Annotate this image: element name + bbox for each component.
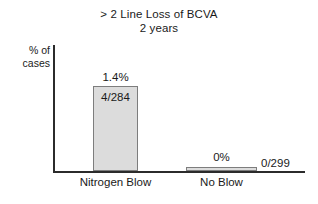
- x-axis-label-no-blow: No Blow: [186, 176, 257, 188]
- x-axis-category-labels: Nitrogen Blow No Blow: [53, 176, 305, 194]
- bar-value-label-nitrogen-blow: 1.4%: [93, 71, 138, 83]
- bar-chart-figure: > 2 Line Loss of BCVA 2 years % of cases…: [0, 0, 318, 204]
- y-axis-label: % of cases: [4, 44, 50, 70]
- x-axis-line: [53, 171, 305, 173]
- plot-area: 4/284 1.4% 0% 0/299: [53, 45, 305, 171]
- bar-no-blow: [186, 167, 257, 171]
- bar-count-label-nitrogen-blow: 4/284: [94, 91, 137, 103]
- bar-count-label-no-blow: 0/299: [261, 157, 290, 169]
- chart-title: > 2 Line Loss of BCVA 2 years: [0, 7, 318, 35]
- y-axis-label-line-2: cases: [4, 57, 50, 70]
- x-axis-label-nitrogen-blow: Nitrogen Blow: [63, 176, 168, 188]
- bar-value-label-no-blow: 0%: [186, 151, 257, 163]
- bar-nitrogen-blow: 4/284: [93, 86, 138, 171]
- chart-title-line-1: > 2 Line Loss of BCVA: [0, 7, 318, 21]
- y-axis-label-line-1: % of: [4, 44, 50, 57]
- chart-title-line-2: 2 years: [0, 21, 318, 35]
